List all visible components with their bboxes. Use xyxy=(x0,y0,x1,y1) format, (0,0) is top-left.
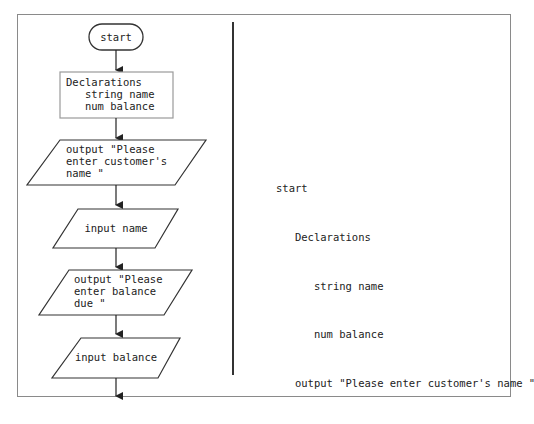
output-balance-line: enter balance xyxy=(74,285,156,297)
pseudocode-line: Declarations xyxy=(276,229,534,245)
output-name-line: output "Please xyxy=(66,143,155,155)
output-name-line: enter customer's xyxy=(66,155,167,167)
column-divider xyxy=(232,22,234,375)
output-balance-line: output "Please xyxy=(74,273,163,285)
pseudocode-line: output "Please enter customer's name " xyxy=(276,375,534,391)
output-balance-line: due " xyxy=(74,297,106,309)
declarations-box: Declarations string name num balance xyxy=(60,72,173,118)
input-balance-label: input balance xyxy=(75,351,157,363)
declarations-line: string name xyxy=(66,88,155,100)
output-name-line: name " xyxy=(66,167,104,179)
input-balance-parallelogram: input balance xyxy=(52,338,180,378)
pseudocode-block: start Declarations string name num balan… xyxy=(276,148,534,424)
pseudocode-line: start xyxy=(276,180,534,196)
pseudocode-line: num balance xyxy=(276,326,534,342)
declarations-line: Declarations xyxy=(66,76,142,88)
output-name-parallelogram: output "Please enter customer's name " xyxy=(27,140,206,185)
declarations-line: num balance xyxy=(66,100,155,112)
input-name-parallelogram: input name xyxy=(53,209,178,248)
input-name-label: input name xyxy=(84,222,147,234)
start-label: start xyxy=(100,31,132,43)
start-terminator: start xyxy=(89,24,143,50)
pseudocode-line: string name xyxy=(276,278,534,294)
output-balance-parallelogram: output "Please enter balance due " xyxy=(39,270,192,315)
